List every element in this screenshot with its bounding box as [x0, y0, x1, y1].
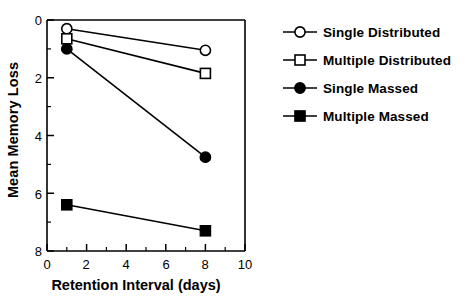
legend-label: Multiple Distributed	[318, 53, 451, 68]
axis-spines	[47, 20, 245, 251]
legend-item-single-distributed: Single Distributed	[282, 18, 471, 46]
data-point	[62, 44, 72, 54]
legend-item-multiple-distributed: Multiple Distributed	[282, 46, 471, 74]
series-line	[67, 49, 206, 157]
legend-item-single-massed: Single Massed	[282, 74, 471, 102]
legend-label: Single Massed	[318, 81, 418, 96]
filled-square-marker-icon	[282, 106, 318, 126]
y-major-ticks	[47, 20, 54, 251]
legend-item-multiple-massed: Multiple Massed	[282, 102, 471, 130]
open-circle-marker-icon	[282, 22, 318, 42]
legend-label: Multiple Massed	[318, 109, 429, 124]
data-point	[200, 226, 210, 236]
data-point	[200, 152, 210, 162]
x-axis-title: Retention Interval (days)	[26, 277, 246, 293]
data-point	[200, 45, 210, 55]
series-single-massed	[62, 44, 211, 163]
open-square-marker-icon	[282, 50, 318, 70]
data-point	[200, 68, 210, 78]
series-line	[67, 39, 206, 74]
series-multiple-massed	[62, 200, 211, 236]
series-line	[67, 205, 206, 231]
chart-figure: Mean Memory Loss 0 2 4 6 8 0 2 4 6 8 10	[0, 0, 471, 304]
series-multiple-distributed	[62, 34, 211, 79]
data-point	[62, 34, 72, 44]
data-point	[62, 24, 72, 34]
series-single-distributed	[62, 24, 211, 56]
filled-circle-marker-icon	[282, 78, 318, 98]
legend-label: Single Distributed	[318, 25, 440, 40]
chart-legend: Single Distributed Multiple Distributed …	[282, 18, 471, 130]
series-line	[67, 29, 206, 51]
data-point	[62, 200, 72, 210]
